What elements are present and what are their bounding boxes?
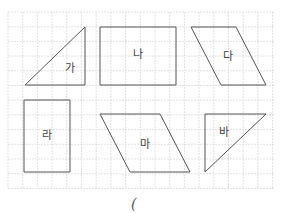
shape-label: 다 [223, 50, 233, 63]
shape-label: 바 [219, 126, 229, 139]
shape-label: 나 [133, 48, 143, 61]
shape-rectangle: 라 [24, 100, 70, 172]
shapes-group: 가나다라마바 [24, 27, 266, 172]
answer-open-paren: ( [131, 196, 136, 212]
shape-parallelogram: 마 [100, 114, 190, 172]
shape-label: 가 [65, 62, 75, 75]
shape-label: 마 [140, 138, 150, 151]
shape-label: 라 [42, 129, 52, 142]
shape-grid-figure: 가나다라마바 [0, 0, 288, 213]
